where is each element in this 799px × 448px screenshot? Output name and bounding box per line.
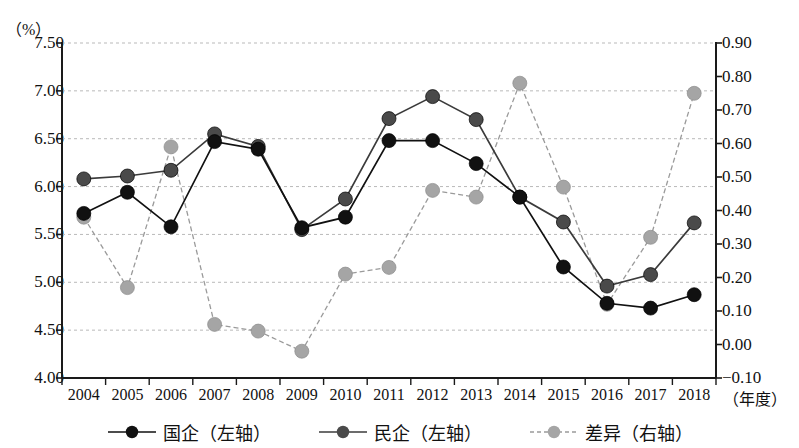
legend-item-minqi[interactable]: 民企（左轴）: [317, 419, 482, 445]
data-point: [687, 288, 701, 302]
data-point: [600, 296, 614, 310]
data-point: [164, 220, 178, 234]
data-point: [120, 185, 134, 199]
data-point: [644, 268, 658, 282]
data-point: [600, 279, 614, 293]
data-point: [556, 180, 570, 194]
data-point: [644, 301, 658, 315]
chart-root: （%） （年度） 4.004.505.005.506.006.507.007.5…: [0, 0, 799, 448]
legend-marker-chayi-icon: [528, 424, 580, 440]
data-point: [426, 134, 440, 148]
data-point: [469, 157, 483, 171]
data-point: [513, 76, 527, 90]
data-point: [469, 190, 483, 204]
data-point: [164, 140, 178, 154]
data-point: [120, 169, 134, 183]
legend-item-guoqi[interactable]: 国企（左轴）: [106, 419, 271, 445]
data-point: [164, 163, 178, 177]
data-point: [208, 135, 222, 149]
plot-area: [0, 0, 799, 448]
data-point: [687, 216, 701, 230]
legend-marker-minqi-icon: [317, 424, 369, 440]
data-point: [469, 113, 483, 127]
legend-marker-guoqi-icon: [106, 424, 158, 440]
data-point: [251, 142, 265, 156]
data-point: [120, 281, 134, 295]
data-point: [77, 206, 91, 220]
chart-legend: 国企（左轴） 民企（左轴） 差异（右轴）: [0, 416, 799, 448]
data-point: [251, 324, 265, 338]
data-point: [644, 230, 658, 244]
data-point: [295, 221, 309, 235]
data-point: [426, 90, 440, 104]
data-point: [426, 183, 440, 197]
data-point: [338, 267, 352, 281]
data-point: [556, 260, 570, 274]
data-point: [338, 192, 352, 206]
data-point: [208, 317, 222, 331]
data-point: [513, 190, 527, 204]
data-point: [382, 112, 396, 126]
data-point: [382, 134, 396, 148]
legend-label-minqi: 民企（左轴）: [374, 419, 482, 445]
data-point: [295, 344, 309, 358]
data-point: [556, 215, 570, 229]
legend-item-chayi[interactable]: 差异（右轴）: [528, 419, 693, 445]
legend-label-guoqi: 国企（左轴）: [163, 419, 271, 445]
data-point: [338, 210, 352, 224]
data-point: [687, 86, 701, 100]
data-point: [77, 172, 91, 186]
data-point: [382, 260, 396, 274]
legend-label-chayi: 差异（右轴）: [585, 419, 693, 445]
